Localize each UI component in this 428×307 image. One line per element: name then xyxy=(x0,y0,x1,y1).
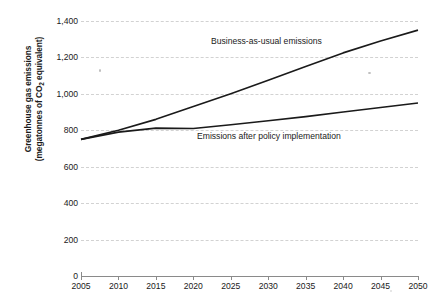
x-tick-mark xyxy=(231,276,232,280)
y-tick-label: 1,000 xyxy=(44,89,78,99)
y-axis-tick-labels: 02004006008001,0001,2001,400 xyxy=(40,0,78,307)
x-tick-label: 2035 xyxy=(296,281,315,291)
x-tick-label: 2010 xyxy=(109,281,128,291)
x-tick-mark xyxy=(268,276,269,280)
y-axis-title-line1: Greenhouse gas emissions xyxy=(23,46,33,153)
y-tick-label: 0 xyxy=(44,271,78,281)
series-lines xyxy=(81,21,418,276)
x-tick-label: 2025 xyxy=(221,281,240,291)
annotation-business-as-usual: Business-as-usual emissions xyxy=(211,36,322,46)
y-tick-label: 1,400 xyxy=(44,16,78,26)
x-tick-mark xyxy=(193,276,194,280)
x-tick-label: 2020 xyxy=(184,281,203,291)
x-tick-mark xyxy=(306,276,307,280)
x-tick-label: 2040 xyxy=(334,281,353,291)
y-tick-label: 200 xyxy=(44,235,78,245)
x-tick-label: 2015 xyxy=(146,281,165,291)
plot-area xyxy=(81,21,418,276)
x-tick-label: 2030 xyxy=(259,281,278,291)
x-tick-mark xyxy=(343,276,344,280)
y-tick-label: 800 xyxy=(44,125,78,135)
y-tick-label: 1,200 xyxy=(44,52,78,62)
x-tick-mark xyxy=(418,276,419,280)
x-tick-mark xyxy=(381,276,382,280)
x-tick-label: 2050 xyxy=(408,281,427,291)
x-tick-mark xyxy=(81,276,82,280)
scan-speckle xyxy=(368,72,371,74)
x-tick-label: 2005 xyxy=(71,281,90,291)
scan-speckle xyxy=(390,290,392,292)
x-tick-mark xyxy=(156,276,157,280)
annotation-policy: Emissions after policy implementation xyxy=(197,131,341,141)
y-tick-label: 600 xyxy=(44,162,78,172)
x-axis-line xyxy=(81,276,418,277)
y-tick-label: 400 xyxy=(44,198,78,208)
scan-speckle xyxy=(99,69,101,72)
x-tick-mark xyxy=(118,276,119,280)
x-tick-label: 2045 xyxy=(371,281,390,291)
